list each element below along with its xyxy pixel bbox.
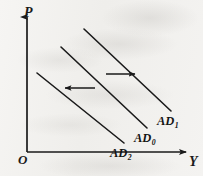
ad1-curve-line [84,29,171,111]
ad2-curve-label-subscript: 2 [128,153,132,162]
ad1-curve-label-subscript: 1 [175,121,179,130]
diagram-canvas [0,0,203,176]
ad2-curve-line [37,73,124,143]
output-income-axis-label: Y [189,155,198,169]
price-level-axis-label: P [24,6,33,20]
ad2-curve-label-text: AD [110,146,127,160]
ad0-curve-label: AD0 [134,132,155,145]
ad2-curve-label: AD2 [110,147,131,160]
ad-shift-figure: P Y O AD1 AD0 AD2 [0,0,203,176]
origin-label: O [18,153,27,166]
ad0-curve-label-text: AD [134,131,151,145]
ad1-curve-label: AD1 [157,115,178,128]
ad1-curve-label-text: AD [157,114,174,128]
ad0-curve-label-subscript: 0 [152,138,156,147]
